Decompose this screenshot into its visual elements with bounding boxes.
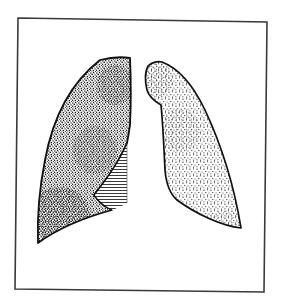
left-lung [144, 62, 241, 230]
lung-illustration: Line drawing of both lungs within a fram… [0, 0, 286, 306]
right-lung [30, 57, 133, 243]
